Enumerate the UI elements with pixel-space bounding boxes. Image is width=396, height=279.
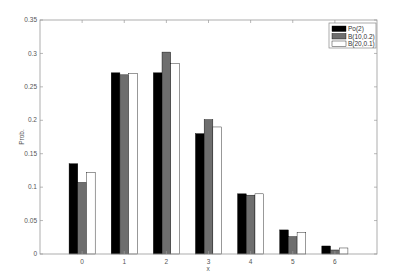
legend-label: B(20,0.1) bbox=[348, 40, 375, 48]
legend-swatch bbox=[332, 26, 346, 32]
x-axis-label: x bbox=[206, 265, 210, 272]
legend-swatch bbox=[332, 34, 346, 40]
bar-chart: 00.050.10.150.20.250.30.350123456 Prob. … bbox=[0, 0, 396, 279]
bars-group bbox=[69, 52, 348, 254]
y-tick-label: 0.15 bbox=[24, 150, 37, 157]
y-tick-label: 0.05 bbox=[24, 217, 37, 224]
y-tick-label: 0.2 bbox=[28, 116, 37, 123]
bar-po-2--x4 bbox=[238, 194, 247, 254]
bar-b-20-0-1--x0 bbox=[86, 172, 95, 254]
bar-b-10-0-2--x2 bbox=[162, 52, 171, 254]
bar-b-10-0-2--x0 bbox=[78, 182, 87, 254]
y-tick-label: 0.25 bbox=[24, 83, 37, 90]
x-tick-label: 4 bbox=[249, 258, 253, 265]
legend: Po(2)B(10,0.2)B(20,0.1) bbox=[329, 23, 376, 48]
legend-swatch bbox=[332, 41, 346, 47]
x-tick-label: 1 bbox=[122, 258, 126, 265]
bar-po-2--x3 bbox=[195, 134, 204, 254]
bar-po-2--x6 bbox=[322, 246, 331, 254]
bar-b-20-0-1--x2 bbox=[171, 63, 180, 254]
x-tick-label: 0 bbox=[80, 258, 84, 265]
x-tick-label: 6 bbox=[333, 258, 337, 265]
bar-po-2--x0 bbox=[69, 164, 78, 254]
x-tick-label: 3 bbox=[207, 258, 211, 265]
y-tick-label: 0 bbox=[33, 250, 37, 257]
x-tick-label: 5 bbox=[291, 258, 295, 265]
x-tick-label: 2 bbox=[165, 258, 169, 265]
bar-b-20-0-1--x1 bbox=[129, 73, 138, 254]
bar-b-20-0-1--x6 bbox=[339, 248, 348, 254]
bar-b-20-0-1--x4 bbox=[255, 194, 264, 254]
bar-po-2--x2 bbox=[153, 73, 162, 254]
bar-b-20-0-1--x3 bbox=[213, 127, 222, 254]
bar-b-20-0-1--x5 bbox=[297, 233, 306, 254]
y-tick-label: 0.35 bbox=[24, 16, 37, 23]
y-axis-label: Prob. bbox=[18, 129, 25, 145]
bar-po-2--x5 bbox=[280, 230, 289, 254]
y-tick-label: 0.1 bbox=[28, 183, 37, 190]
bar-po-2--x1 bbox=[111, 73, 120, 254]
bar-b-10-0-2--x1 bbox=[120, 75, 129, 254]
y-tick-label: 0.3 bbox=[28, 50, 37, 57]
bar-b-10-0-2--x3 bbox=[204, 120, 213, 254]
bar-b-10-0-2--x4 bbox=[246, 195, 255, 254]
